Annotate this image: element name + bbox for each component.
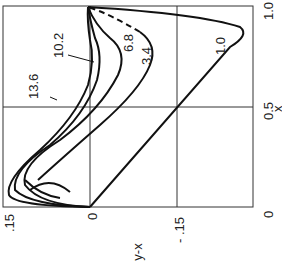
- rotated-line-chart: 13.6 10.2 6.8 3.4 1.0 0 0.5 1.0 .15 0 - …: [0, 0, 282, 265]
- curve-label-13.6: 13.6: [26, 74, 41, 99]
- x-tick-1.0: 1.0: [261, 2, 276, 20]
- y-tick-pos015: .15: [2, 214, 17, 232]
- curve-label-10.2: 10.2: [51, 33, 66, 58]
- y-axis-label: y-x: [130, 243, 145, 261]
- curve-label-1.0: 1.0: [213, 37, 228, 55]
- curve-label-6.8: 6.8: [121, 34, 136, 52]
- y-tick-0: 0: [85, 213, 100, 220]
- y-tick-neg015: - .15: [172, 217, 187, 243]
- curve-label-3.4: 3.4: [139, 47, 154, 65]
- x-tick-0: 0: [261, 211, 276, 218]
- arrow-13.6: [50, 97, 57, 100]
- x-axis-label: x: [270, 105, 282, 112]
